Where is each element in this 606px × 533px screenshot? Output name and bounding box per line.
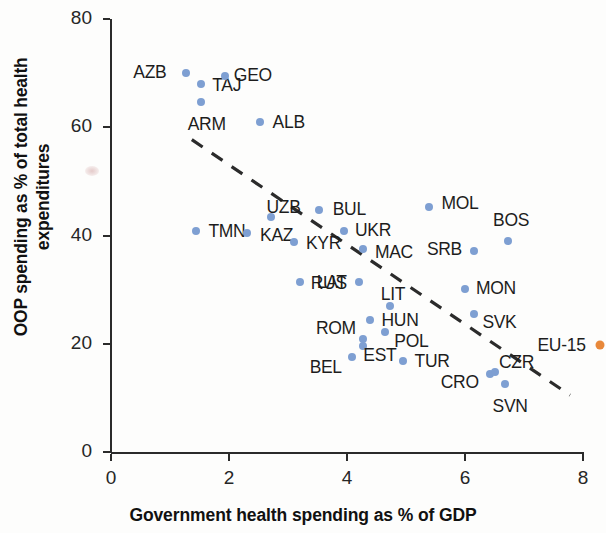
point-label-bel: BEL — [310, 357, 342, 378]
point-label-est: EST — [363, 345, 396, 366]
point-label-lat: LAT — [317, 271, 347, 292]
data-point[interactable] — [348, 353, 356, 361]
data-point[interactable] — [501, 380, 509, 388]
point-label-czr: CZR — [499, 351, 534, 372]
data-point[interactable] — [290, 238, 298, 246]
data-point[interactable] — [340, 227, 348, 235]
point-label-srb: SRB — [427, 238, 462, 259]
data-point[interactable] — [221, 72, 229, 80]
point-label-alb: ALB — [273, 111, 305, 132]
point-label-mon: MON — [476, 277, 516, 298]
data-point[interactable] — [182, 69, 190, 77]
data-point[interactable] — [595, 340, 604, 349]
data-point[interactable] — [399, 357, 407, 365]
point-label-eu-15: EU-15 — [537, 334, 585, 355]
point-label-lit: LIT — [381, 283, 405, 304]
data-point[interactable] — [359, 245, 367, 253]
data-point[interactable] — [491, 368, 499, 376]
data-point[interactable] — [197, 80, 205, 88]
data-point[interactable] — [315, 206, 323, 214]
point-label-kyr: KYR — [306, 232, 341, 253]
data-point[interactable] — [381, 328, 389, 336]
point-label-rom: ROM — [316, 318, 356, 339]
data-point[interactable] — [470, 310, 478, 318]
point-label-arm: ARM — [188, 114, 226, 135]
data-point[interactable] — [296, 278, 304, 286]
point-label-pol: POL — [394, 330, 428, 351]
point-label-tmn: TMN — [208, 221, 245, 242]
data-point[interactable] — [425, 203, 433, 211]
point-label-bul: BUL — [333, 198, 366, 219]
point-label-svn: SVN — [493, 396, 528, 417]
data-point[interactable] — [355, 278, 363, 286]
point-label-tur: TUR — [415, 351, 450, 372]
scatter-chart-figure: 02040608002468 OOP spending as % of tota… — [0, 0, 606, 533]
data-point[interactable] — [504, 237, 512, 245]
data-point[interactable] — [243, 229, 251, 237]
data-point[interactable] — [197, 98, 205, 106]
point-label-cro: CRO — [441, 371, 479, 392]
point-label-svk: SVK — [482, 311, 516, 332]
trend-line — [0, 0, 606, 533]
point-label-bos: BOS — [493, 209, 529, 230]
point-label-mac: MAC — [375, 242, 413, 263]
data-point[interactable] — [461, 285, 469, 293]
data-point[interactable] — [192, 227, 200, 235]
data-point[interactable] — [256, 118, 264, 126]
data-point[interactable] — [366, 316, 374, 324]
point-label-geo: GEO — [234, 64, 272, 85]
point-label-ukr: UKR — [355, 220, 391, 241]
point-label-kaz: KAZ — [260, 224, 293, 245]
point-label-azb: AZB — [133, 62, 166, 83]
point-label-mol: MOL — [441, 192, 478, 213]
point-label-uzb: UZB — [266, 196, 300, 217]
data-point[interactable] — [470, 247, 478, 255]
